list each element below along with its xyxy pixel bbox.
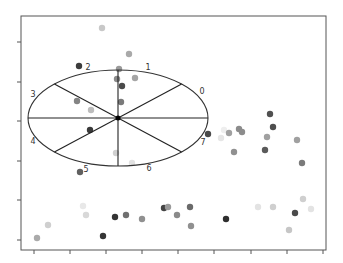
sector-label-3: 3 [30, 90, 35, 99]
sectored-ellipse [28, 70, 208, 166]
data-points [34, 25, 314, 241]
sector-label-4: 4 [30, 137, 35, 146]
center-point [116, 116, 121, 121]
sector-label-5: 5 [83, 165, 88, 174]
data-point [300, 196, 306, 202]
data-point [76, 63, 82, 69]
data-point [88, 107, 94, 113]
data-point [45, 222, 51, 228]
data-point [239, 129, 245, 135]
data-point [80, 203, 86, 209]
sector-label-0: 0 [199, 87, 204, 96]
data-point [100, 233, 106, 239]
data-point [264, 134, 270, 140]
data-point [308, 206, 314, 212]
data-point [188, 223, 194, 229]
data-point [119, 83, 125, 89]
data-point [218, 135, 224, 141]
data-point [114, 76, 120, 82]
data-point [112, 214, 118, 220]
sector-label-7: 7 [200, 138, 205, 147]
data-point [286, 227, 292, 233]
data-point [187, 204, 193, 210]
data-point [292, 210, 298, 216]
data-point [267, 111, 273, 117]
scatter-diagram: 01234567 [0, 0, 343, 263]
data-point [294, 137, 300, 143]
data-point [83, 212, 89, 218]
sector-label-6: 6 [146, 164, 151, 173]
data-point [116, 66, 122, 72]
data-point [139, 216, 145, 222]
data-point [226, 130, 232, 136]
data-point [132, 75, 138, 81]
data-point [299, 160, 305, 166]
data-point [174, 212, 180, 218]
data-point [165, 204, 171, 210]
data-point [205, 131, 211, 137]
data-point [270, 124, 276, 130]
data-point [262, 147, 268, 153]
data-point [123, 212, 129, 218]
data-point [270, 204, 276, 210]
data-point [99, 25, 105, 31]
data-point [223, 216, 229, 222]
data-point [77, 169, 83, 175]
data-point [126, 51, 132, 57]
data-point [118, 99, 124, 105]
sector-label-1: 1 [145, 63, 150, 72]
data-point [231, 149, 237, 155]
data-point [34, 235, 40, 241]
data-point [74, 98, 80, 104]
plot-frame [21, 16, 326, 250]
plot-border [21, 16, 326, 250]
data-point [255, 204, 261, 210]
sector-label-2: 2 [85, 63, 90, 72]
